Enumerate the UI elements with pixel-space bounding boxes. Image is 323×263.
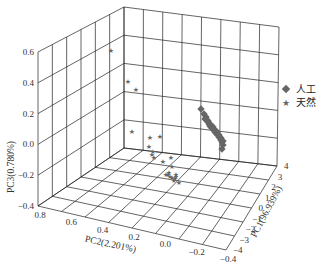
z-tick-label: 0.2 (23, 109, 34, 119)
z-tick-label: −0.2 (18, 170, 34, 180)
grid-line (277, 27, 279, 166)
grid-line (201, 17, 202, 157)
star-marker: ★ (108, 47, 114, 55)
x-tick-label: −0.4 (220, 254, 237, 263)
diamond-icon (282, 85, 290, 93)
grid-lines (38, 7, 279, 250)
star-marker: ★ (125, 78, 131, 86)
legend-label: 天然 (296, 96, 316, 108)
y-tick-label: 3 (278, 172, 283, 182)
x-tick-label: 0.8 (34, 210, 46, 220)
star-marker: ★ (129, 128, 135, 136)
star-marker: ★ (151, 154, 157, 162)
x-tick-label: 0.6 (66, 217, 78, 227)
star-marker: ★ (147, 134, 153, 142)
star-marker: ★ (168, 154, 174, 162)
star-marker: ★ (133, 86, 139, 94)
legend: 人工 ★ 天然 (282, 84, 316, 108)
z-tick-label: 0.4 (23, 78, 35, 88)
grid-line (162, 12, 163, 153)
legend-item-artificial: 人工 (282, 84, 316, 95)
z-tick-label: 0.0 (23, 139, 35, 149)
star-marker: ★ (173, 173, 179, 181)
x-tick-label: 0.2 (128, 232, 139, 242)
x-tick-label: 0.4 (97, 225, 109, 235)
y-tick-label: −3 (239, 235, 249, 245)
star-marker: ★ (166, 169, 172, 177)
x-tick-label: −0.2 (189, 247, 205, 257)
x-tick-label: 0.0 (160, 239, 172, 249)
star-marker: ★ (157, 133, 163, 141)
y-tick-label: 4 (284, 161, 289, 171)
grid-line (258, 25, 260, 164)
grid-line (181, 15, 182, 155)
star-marker: ★ (160, 158, 166, 166)
legend-item-natural: ★ 天然 (282, 96, 316, 108)
y-tick-label: −4 (233, 245, 243, 255)
z-axis-label: PC3(0.780%) (6, 141, 17, 193)
z-tick-label: −0.4 (18, 201, 35, 211)
grid-line (239, 22, 241, 162)
legend-label: 人工 (296, 84, 316, 95)
pca-3d-scatter-chart: 0.60.40.20.0−0.2−0.40.80.60.40.20.0−0.2−… (0, 0, 323, 263)
z-tick-label: 0.6 (23, 47, 35, 57)
star-icon: ★ (282, 98, 290, 108)
grid-line (179, 162, 239, 240)
